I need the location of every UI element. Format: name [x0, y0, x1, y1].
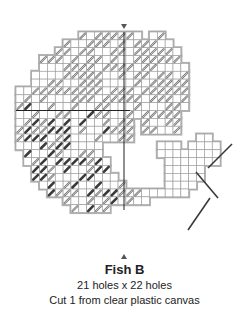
- pattern-dimensions: 21 holes x 22 holes: [0, 279, 249, 291]
- bottom-center-arrow-icon: [121, 254, 127, 259]
- fish-b-pattern-chart: [0, 0, 249, 262]
- top-center-arrow-icon: [121, 24, 127, 29]
- pattern-instruction: Cut 1 from clear plastic canvas: [0, 294, 249, 306]
- pattern-title: Fish B: [0, 262, 249, 277]
